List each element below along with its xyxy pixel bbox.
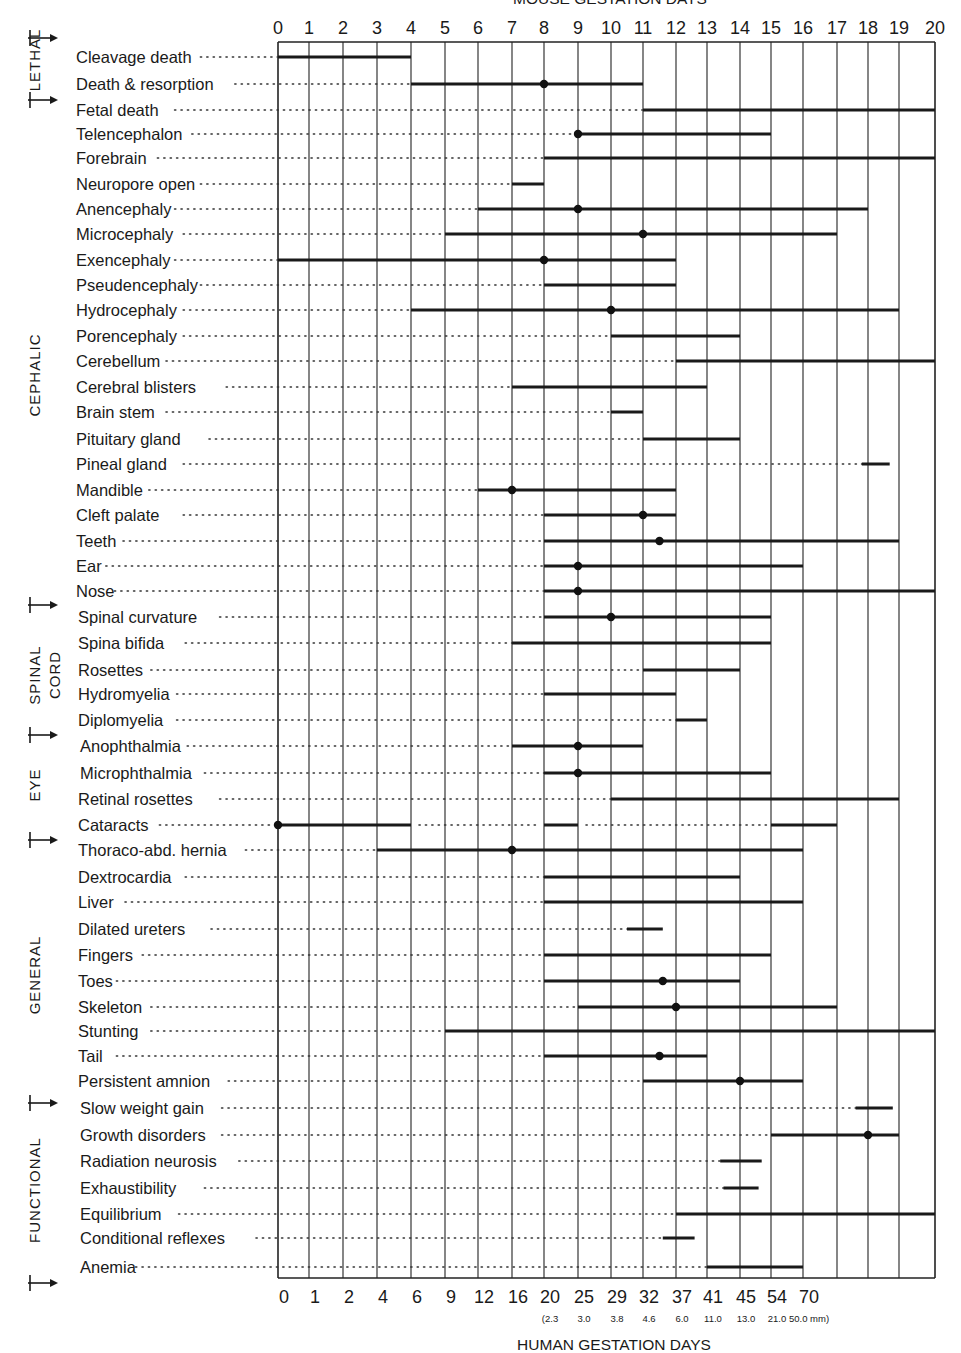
- chart-row: Stunting: [78, 1022, 935, 1040]
- row-label: Mandible: [76, 481, 143, 499]
- row-label: Diplomyelia: [78, 711, 164, 729]
- section-label: CORD: [46, 651, 63, 699]
- chart-row: Anemia: [80, 1258, 803, 1276]
- bottom-tick-label: 4: [378, 1287, 388, 1307]
- top-axis-ticks: 01234567891011121314151617181920: [273, 18, 945, 38]
- top-tick-label: 5: [440, 18, 450, 38]
- bottom-tick-label: 54: [767, 1287, 787, 1307]
- chart-row: Dextrocardia: [78, 868, 740, 886]
- row-label: Brain stem: [76, 403, 155, 421]
- peak-sensitivity-dot: [574, 587, 582, 595]
- bottom-tick-label: 41: [703, 1287, 723, 1307]
- top-tick-label: 4: [406, 18, 416, 38]
- top-tick-label: 7: [507, 18, 517, 38]
- embryo-length-label: 3.8: [610, 1313, 623, 1324]
- top-tick-label: 3: [372, 18, 382, 38]
- chart-row: Conditional reflexes: [80, 1229, 695, 1247]
- row-label: Cerebral blisters: [76, 378, 196, 396]
- peak-sensitivity-dot: [607, 613, 615, 621]
- row-label: Dilated ureters: [78, 920, 185, 938]
- peak-sensitivity-dot: [639, 511, 647, 519]
- row-label: Fingers: [78, 946, 133, 964]
- top-tick-label: 2: [338, 18, 348, 38]
- top-tick-label: 1: [304, 18, 314, 38]
- bottom-axis-title: HUMAN GESTATION DAYS: [517, 1336, 711, 1353]
- top-tick-label: 16: [793, 18, 813, 38]
- chart-row: Fetal death: [76, 101, 935, 119]
- section-labels: LETHALCEPHALICSPINALCORDEYEGENERALFUNCTI…: [26, 29, 63, 1291]
- chart-row: Cerebral blisters: [76, 378, 707, 396]
- top-tick-label: 14: [730, 18, 750, 38]
- row-label: Neuropore open: [76, 175, 195, 193]
- section-divider-arrow-icon: [28, 1095, 58, 1111]
- row-label: Fetal death: [76, 101, 159, 119]
- row-label: Ear: [76, 557, 102, 575]
- chart-row: Equilibrium: [80, 1205, 935, 1223]
- peak-sensitivity-dot: [574, 205, 582, 213]
- chart-row: Anophthalmia: [80, 737, 643, 755]
- chart-row: Brain stem: [76, 403, 643, 421]
- bottom-axis-ticks: 0124691216202529323741455470(2.33.03.84.…: [279, 1287, 829, 1324]
- row-label: Rosettes: [78, 661, 143, 679]
- top-tick-label: 19: [889, 18, 909, 38]
- row-label: Anemia: [80, 1258, 137, 1276]
- top-tick-label: 6: [473, 18, 483, 38]
- row-label: Hydrocephaly: [76, 301, 178, 319]
- top-tick-label: 10: [601, 18, 621, 38]
- bottom-tick-label: 12: [474, 1287, 494, 1307]
- chart-row: Pineal gland: [76, 455, 890, 473]
- chart-row: Rosettes: [78, 661, 740, 679]
- embryo-length-label: 50.0 mm): [789, 1313, 829, 1324]
- section-label: EYE: [26, 768, 43, 801]
- row-label: Nose: [76, 582, 115, 600]
- chart-row: Tail: [78, 1047, 707, 1065]
- peak-sensitivity-dot: [864, 1131, 872, 1139]
- row-label: Forebrain: [76, 149, 147, 167]
- chart-row: Liver: [78, 893, 803, 911]
- top-tick-label: 0: [273, 18, 283, 38]
- top-tick-label: 12: [666, 18, 686, 38]
- row-label: Anencephaly: [76, 200, 172, 218]
- chart-row: Telencephalon: [76, 125, 771, 143]
- section-label: GENERAL: [26, 936, 43, 1015]
- chart-row: Cerebellum: [76, 352, 935, 370]
- chart-row: Pituitary gland: [76, 430, 740, 448]
- row-label: Porencephaly: [76, 327, 178, 345]
- peak-sensitivity-dot: [574, 742, 582, 750]
- top-tick-label: 18: [858, 18, 878, 38]
- peak-sensitivity-dot: [540, 256, 548, 264]
- bottom-tick-label: 9: [446, 1287, 456, 1307]
- chart-row: Pseudencephaly: [76, 276, 676, 294]
- embryo-length-label: 6.0: [675, 1313, 688, 1324]
- chart-row: Ear: [76, 557, 803, 575]
- row-label: Dextrocardia: [78, 868, 172, 886]
- section-label: CEPHALIC: [26, 333, 43, 416]
- top-tick-label: 20: [925, 18, 945, 38]
- chart-row: Growth disorders: [80, 1126, 899, 1144]
- peak-sensitivity-dot: [574, 769, 582, 777]
- row-label: Microphthalmia: [80, 764, 193, 782]
- bottom-tick-label: 29: [607, 1287, 627, 1307]
- chart-row: Spina bifida: [78, 634, 771, 652]
- bottom-tick-label: 16: [508, 1287, 528, 1307]
- bottom-tick-label: 20: [540, 1287, 560, 1307]
- peak-sensitivity-dot: [274, 821, 282, 829]
- row-label: Cerebellum: [76, 352, 160, 370]
- chart-row: Skeleton: [78, 998, 837, 1016]
- row-label: Persistent amnion: [78, 1072, 210, 1090]
- row-label: Cleavage death: [76, 48, 192, 66]
- row-label: Toes: [78, 972, 113, 990]
- row-label: Thoraco-abd. hernia: [78, 841, 227, 859]
- row-label: Equilibrium: [80, 1205, 162, 1223]
- peak-sensitivity-dot: [736, 1077, 744, 1085]
- embryo-length-label: 4.6: [642, 1313, 655, 1324]
- embryo-length-label: (2.3: [542, 1313, 558, 1324]
- chart-row: Mandible: [76, 481, 676, 499]
- section-divider-arrow-icon: [28, 1275, 58, 1291]
- row-label: Pituitary gland: [76, 430, 181, 448]
- row-label: Slow weight gain: [80, 1099, 204, 1117]
- embryo-length-label: 11.0: [704, 1313, 722, 1324]
- top-tick-label: 9: [573, 18, 583, 38]
- teratogenesis-timing-chart: MOUSE GESTATION DAYS 0123456789101112131…: [0, 0, 961, 1353]
- chart-row: Death & resorption: [76, 75, 643, 93]
